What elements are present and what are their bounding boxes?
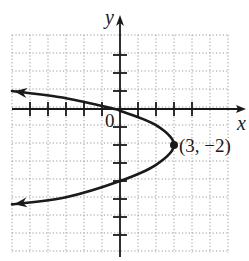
curve-arrowheads <box>14 88 28 207</box>
x-axis-label: x <box>236 112 246 134</box>
y-axis-label: y <box>103 6 114 29</box>
axis-ticks <box>30 55 192 235</box>
vertex-label: (3, −2) <box>179 135 231 157</box>
vertex-point <box>170 141 178 149</box>
parabola-graph: (3, −2) x y 0 <box>0 0 249 261</box>
parabola-curve <box>12 91 174 204</box>
origin-label: 0 <box>105 110 115 131</box>
